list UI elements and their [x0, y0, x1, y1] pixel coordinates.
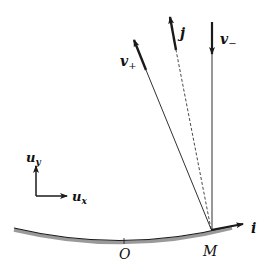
surface-curve — [14, 226, 232, 241]
j-dashed-line — [176, 50, 211, 229]
label-u-y: uy — [26, 150, 41, 167]
v-plus-line — [146, 70, 211, 229]
diagram-canvas: v+ j v− i uy ux O M — [0, 0, 273, 275]
label-v-minus: v− — [220, 31, 237, 49]
label-u-x: ux — [72, 189, 87, 206]
j-arrow — [170, 17, 176, 50]
label-M: M — [202, 243, 218, 259]
label-v-plus: v+ — [120, 53, 137, 71]
label-j: j — [177, 25, 185, 41]
label-i: i — [251, 220, 256, 236]
label-O: O — [119, 246, 131, 262]
